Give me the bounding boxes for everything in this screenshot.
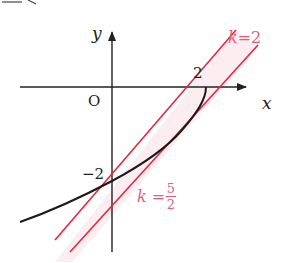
fraction-denominator: 2 <box>167 198 175 211</box>
label-k-2-k: k <box>228 28 238 47</box>
label-k-5-2: k = <box>137 189 165 205</box>
y-axis-label: y <box>92 25 102 42</box>
label-k-2-value: 2 <box>251 28 261 47</box>
graph-diagram: y x O 2 −2 k=2 k = 5 2 <box>0 0 291 263</box>
label-k-5-2-eq: = <box>152 187 165 206</box>
label-k-2: k=2 <box>228 30 261 46</box>
x-axis-label: x <box>262 95 272 112</box>
label-k-5-2-k: k <box>137 187 147 206</box>
x-tick-label: 2 <box>193 66 203 81</box>
label-k-2-eq: = <box>238 28 251 47</box>
fraction-5-2: 5 2 <box>166 182 176 211</box>
fraction-numerator: 5 <box>167 182 175 195</box>
y-tick-label: −2 <box>82 167 104 182</box>
shaded-band <box>55 30 258 262</box>
line-k-2 <box>55 30 236 240</box>
cropped-top-text <box>2 0 36 4</box>
origin-label: O <box>88 94 100 109</box>
